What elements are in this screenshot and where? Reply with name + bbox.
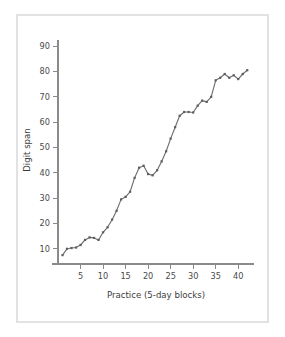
y-tick-label: 10 [40,244,50,254]
data-point-marker [224,73,226,75]
data-point-marker [174,126,176,128]
data-point-marker [124,196,126,198]
data-point-marker [111,219,113,221]
data-point-marker [84,239,86,241]
x-axis: 510152025303540 [52,264,254,281]
data-point-marker [215,79,217,81]
data-point-marker [66,248,68,250]
data-point-marker [152,174,154,176]
data-point-marker [237,78,239,80]
data-point-marker [70,247,72,249]
data-point-marker [120,198,122,200]
x-tick-label: 35 [210,271,220,281]
figure-root: 102030405060708090 510152025303540 Digit… [0,0,285,337]
y-tick-label: 70 [40,92,50,102]
y-tick-label: 80 [40,66,50,76]
data-point-marker [161,160,163,162]
y-tick-label: 60 [40,117,50,127]
x-tick-label: 20 [143,271,153,281]
data-point-marker [88,236,90,238]
y-tick-label: 20 [40,218,50,228]
data-point-marker [147,173,149,175]
data-point-marker [61,254,63,256]
chart-plot-area: 102030405060708090 510152025303540 Digit… [0,0,285,337]
y-tick-label: 90 [40,41,50,51]
data-point-marker [115,210,117,212]
x-tick-label: 30 [188,271,198,281]
y-axis-title: Digit span [22,128,32,172]
data-point-marker [75,246,77,248]
y-axis: 102030405060708090 [40,40,58,264]
data-point-marker [102,231,104,233]
x-tick-label: 5 [78,271,83,281]
y-tick-label: 50 [40,142,50,152]
data-point-marker [183,111,185,113]
data-point-marker [201,100,203,102]
data-point-marker [134,177,136,179]
data-point-marker [93,237,95,239]
data-point-marker [165,150,167,152]
x-tick-label: 10 [98,271,108,281]
data-point-marker [79,244,81,246]
data-point-marker [197,105,199,107]
digit-span-line-chart: 102030405060708090 510152025303540 Digit… [0,0,285,337]
data-point-marker [170,138,172,140]
data-point-marker [179,115,181,117]
data-point-marker [156,169,158,171]
data-point-marker [106,226,108,228]
data-point-marker [129,191,131,193]
data-point-marker [188,111,190,113]
data-point-marker [206,101,208,103]
data-point-marker [210,96,212,98]
y-tick-label: 40 [40,168,50,178]
data-line [63,70,248,255]
x-tick-label: 15 [120,271,130,281]
data-point-marker [246,69,248,71]
data-point-marker [233,74,235,76]
data-point-marker [138,167,140,169]
x-axis-title: Practice (5-day blocks) [107,290,205,300]
x-tick-label: 25 [165,271,175,281]
y-tick-label: 30 [40,193,50,203]
data-point-marker [143,165,145,167]
data-point-marker [242,73,244,75]
data-point-marker [97,239,99,241]
data-series-digit-span [61,69,248,256]
data-point-marker [192,111,194,113]
data-point-marker [219,77,221,79]
x-tick-label: 40 [233,271,243,281]
data-point-marker [228,77,230,79]
